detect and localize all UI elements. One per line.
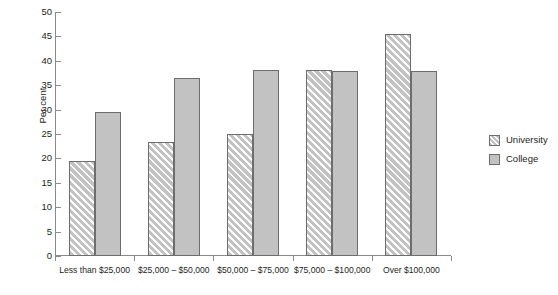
- y-axis-tick-label: 10: [24, 200, 52, 213]
- bar-university-2: [227, 134, 253, 256]
- x-axis-category-label: $50,000 – $75,000: [213, 264, 292, 276]
- y-axis-tick-mark: [56, 256, 61, 257]
- bar-university-1: [148, 142, 174, 256]
- bar-college-4: [411, 71, 437, 256]
- chart-legend: UniversityCollege: [489, 134, 548, 172]
- bar-college-2: [253, 70, 279, 256]
- y-axis-tick-label: 25: [24, 127, 52, 140]
- bar-college-3: [332, 71, 358, 256]
- legend-item-label: College: [506, 153, 538, 165]
- x-axis-category-label: $25,000 – $50,000: [134, 264, 213, 276]
- x-axis-tick-mark: [293, 256, 294, 261]
- y-axis-tick-label: 40: [24, 54, 52, 67]
- x-axis-category-label: $75,000 – $100,000: [293, 264, 372, 276]
- legend-item-university[interactable]: University: [489, 134, 548, 146]
- bar-university-4: [385, 34, 411, 256]
- x-axis-tick-mark: [213, 256, 214, 261]
- bar-college-0: [95, 112, 121, 256]
- bar-college-1: [174, 78, 200, 256]
- x-axis-tick-mark: [134, 256, 135, 261]
- y-axis-tick-label: 5: [24, 225, 52, 238]
- legend-item-college[interactable]: College: [489, 153, 548, 165]
- y-axis-tick-label: 35: [24, 78, 52, 91]
- legend-swatch-icon: [489, 154, 500, 165]
- x-axis-tick-mark: [451, 256, 452, 261]
- x-axis-tick-mark: [372, 256, 373, 261]
- plot-area: [55, 12, 451, 256]
- x-axis-category-label: Less than $25,000: [55, 264, 134, 276]
- bar-university-3: [306, 70, 332, 256]
- x-axis-category-label: Over $100,000: [372, 264, 451, 276]
- y-axis-tick-label: 15: [24, 176, 52, 189]
- x-axis-tick-mark: [55, 256, 56, 261]
- y-axis-tick-label: 50: [24, 5, 52, 18]
- y-axis-tick-label: 0: [24, 249, 52, 262]
- legend-swatch-icon: [489, 135, 500, 146]
- y-axis-tick-label: 45: [24, 29, 52, 42]
- bar-chart: Per cent 05101520253035404550 Less than …: [0, 0, 558, 295]
- y-axis-tick-label: 30: [24, 103, 52, 116]
- legend-item-label: University: [506, 134, 548, 146]
- bar-university-0: [69, 161, 95, 256]
- y-axis-tick-label: 20: [24, 151, 52, 164]
